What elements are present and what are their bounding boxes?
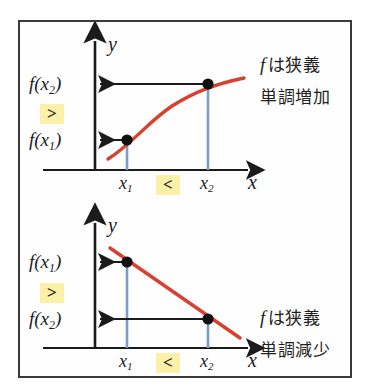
- y-relation-badge-increasing: >: [40, 104, 64, 124]
- x-relation-badge-increasing: <: [156, 175, 180, 195]
- figure-root: y x f(x2) f(x1) > x1 x2 < fは狭義: [0, 0, 369, 392]
- y-axis-label-increasing: y: [108, 34, 117, 54]
- caption-rest: は狭義: [268, 55, 321, 75]
- caption-line1-decreasing: fは狭義: [260, 304, 320, 329]
- y-axis-label-decreasing: y: [108, 215, 117, 235]
- x-tick-sub: 1: [127, 360, 133, 372]
- point-x1-decreasing: [121, 256, 132, 267]
- y-tick-label-fx2-increasing: f(x2): [29, 74, 61, 96]
- point-x2-decreasing: [202, 313, 213, 324]
- x-relation-badge-decreasing: <: [156, 353, 180, 373]
- x-tick-base: x: [119, 173, 127, 193]
- y-relation-badge-decreasing: >: [40, 283, 64, 303]
- caption-line2-increasing: 単調増加: [260, 83, 330, 108]
- figure-frame: y x f(x2) f(x1) > x1 x2 < fは狭義: [18, 20, 352, 378]
- curve-increasing: [108, 78, 244, 159]
- y-tick-close: ): [55, 251, 61, 272]
- caption-f-glyph: f: [260, 54, 268, 75]
- caption-f-glyph: f: [260, 307, 268, 328]
- y-tick-label-fx2-decreasing: f(x2): [29, 309, 61, 331]
- caption-rest: は狭義: [268, 308, 321, 328]
- caption-line2-decreasing: 単調減少: [260, 336, 330, 361]
- y-tick-base: f(x: [29, 129, 49, 150]
- y-tick-base: f(x: [29, 73, 49, 94]
- y-tick-close: ): [55, 308, 61, 329]
- point-x2-increasing: [202, 78, 213, 89]
- y-tick-close: ): [55, 73, 61, 94]
- x-tick-base: x: [200, 351, 208, 371]
- x-tick-sub: 1: [127, 182, 133, 194]
- x-tick-sub: 2: [208, 360, 214, 372]
- x-tick-sub: 2: [208, 182, 214, 194]
- y-tick-label-fx1-decreasing: f(x1): [29, 252, 61, 274]
- x-tick-base: x: [119, 351, 127, 371]
- x-axis-label-increasing: x: [248, 172, 257, 192]
- panel-monotone-increasing: y x f(x2) f(x1) > x1 x2 < fは狭義: [20, 22, 350, 201]
- plot-increasing: [20, 22, 350, 201]
- x-tick-label-x1-increasing: x1: [119, 174, 133, 194]
- x-tick-label-x1-decreasing: x1: [119, 352, 133, 372]
- x-tick-label-x2-decreasing: x2: [200, 352, 214, 372]
- y-tick-close: ): [55, 129, 61, 150]
- x-tick-label-x2-increasing: x2: [200, 174, 214, 194]
- panel-monotone-decreasing: y x f(x1) f(x2) > x1 x2 < fは狭義: [20, 201, 350, 376]
- y-tick-label-fx1-increasing: f(x1): [29, 130, 61, 152]
- y-tick-base: f(x: [29, 251, 49, 272]
- caption-line1-increasing: fは狭義: [260, 51, 320, 76]
- y-tick-base: f(x: [29, 308, 49, 329]
- x-axis-label-decreasing: x: [248, 350, 257, 370]
- x-tick-base: x: [200, 173, 208, 193]
- point-x1-increasing: [121, 134, 132, 145]
